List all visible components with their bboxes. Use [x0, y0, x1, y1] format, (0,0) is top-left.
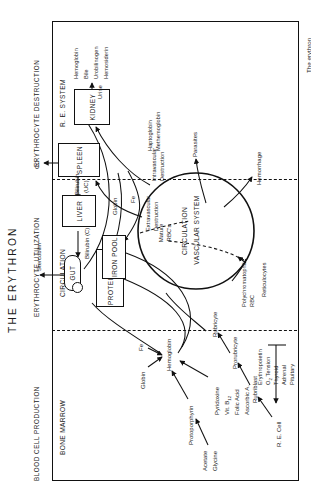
- circulation-title-line2: VASCULAR SYSTEM: [194, 185, 201, 275]
- carbon-monoxide-label: CO: [34, 160, 40, 169]
- vitamin-b12-sub: 12: [227, 396, 232, 401]
- stimulus-adrenal: Adrenal: [282, 365, 288, 385]
- vitamin-b12-text: Vit. B: [224, 401, 230, 415]
- marrow-fe-label: Fe: [138, 344, 144, 351]
- stercobilin-label: Stercobilin: [36, 243, 42, 271]
- bilirubin-c-label: Bilirubin (C): [84, 228, 90, 259]
- stimulus-pituitary: Pituitary: [290, 364, 296, 385]
- connector-overlay: [0, 0, 311, 503]
- haptoglobin-label: Haptoglobin: [148, 120, 154, 151]
- organ-kidney[interactable]: KIDNEY: [74, 89, 110, 125]
- stimulus-thyroid: Thyroid: [274, 366, 280, 385]
- organ-liver-label: LIVER: [76, 201, 83, 222]
- pool-iron[interactable]: IRON POOL: [102, 235, 126, 279]
- re-cell-label: R. E. Cell: [276, 422, 282, 447]
- prorubricyte-label: Prorubricyte: [232, 337, 238, 369]
- parasites-label: Parasites: [192, 132, 198, 157]
- extravascular-destruction-line1: Extravascular: [146, 196, 152, 231]
- pyridoxine-label: Pyridoxine: [214, 387, 220, 415]
- extravascular-destruction-line2: Destruction: [154, 202, 160, 231]
- organ-liver[interactable]: LIVER: [62, 195, 96, 227]
- organ-gut-label: GUT: [69, 266, 76, 281]
- gut-end-circle-icon: [72, 282, 83, 293]
- organ-spleen-label: SPLEEN: [76, 146, 83, 174]
- marrow-globin-label: Globin: [140, 372, 146, 389]
- polychromatophil-rbc-line2: RBC: [250, 295, 256, 307]
- vitamin-b12-label: Vit. B12: [224, 396, 233, 415]
- figure-canvas: THE ERYTHRON BLOOD CELL PRODUCTION ERYTH…: [0, 0, 311, 503]
- protoporphyrin-label: Protoporphyrin: [188, 406, 194, 445]
- intravascular-destruction-line2: Destruction: [160, 152, 166, 181]
- kidney-output-hemosiderin: Hemosiderin: [104, 47, 110, 80]
- ascorbic-acid-label: Ascorbic A.: [244, 385, 250, 415]
- polychromatophil-rbc-line1: Polychromatophil: [242, 262, 248, 307]
- kidney-output-urobilinogen: Urobilinogen: [94, 46, 100, 79]
- organ-kidney-label: KIDNEY: [89, 94, 96, 121]
- bilirubin-uc-line1: Bilirubin: [74, 174, 80, 195]
- intravascular-destruction-line1: Intravascular: [152, 148, 158, 181]
- pool-iron-label: IRON POOL: [111, 237, 118, 277]
- kidney-output-hemoglobin: Hemoglobin: [74, 48, 80, 79]
- circulation-title-line1: CIRCULATION: [182, 195, 189, 267]
- destruction-fe-label: Fe: [130, 196, 136, 203]
- folic-acid-label: Folic Acid: [234, 389, 240, 415]
- urine-label: Urine: [98, 85, 104, 99]
- kidney-output-bile: Bile: [84, 69, 90, 79]
- glycine-label: Glycine: [212, 451, 218, 471]
- figure-caption: The erythron: [306, 38, 311, 73]
- bilirubin-uc-line2: (UC): [83, 180, 89, 193]
- reticulocytes-label: Reticulocytes: [262, 262, 268, 297]
- hemorrhage-label: Hemorrhage: [256, 152, 262, 185]
- destruction-globin-label: Globin: [112, 198, 118, 215]
- organ-spleen[interactable]: SPLEEN: [58, 143, 100, 177]
- acetate-label: Acetate: [202, 451, 208, 471]
- mature-rbc-line2: RBC's: [166, 213, 172, 253]
- stimulus-erythropoietin: Erythropoietin: [258, 349, 264, 385]
- methemoglobin-label: Methemoglobin: [156, 111, 162, 151]
- marrow-hemoglobin-label: Hemoglobin: [166, 339, 172, 371]
- erythron-diagram: THE ERYTHRON BLOOD CELL PRODUCTION ERYTH…: [0, 0, 311, 503]
- rubricyte-label: Rubricyte: [212, 312, 218, 337]
